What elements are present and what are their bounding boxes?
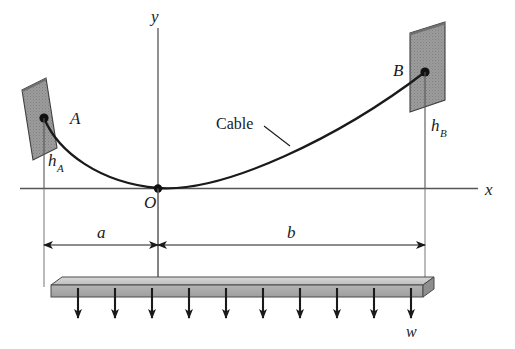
cable-label: Cable [216, 115, 253, 132]
load-beam [51, 277, 434, 297]
dimension-b-label: b [287, 223, 296, 242]
left-support-plate [22, 78, 57, 160]
height-b-symbol: h [431, 116, 440, 135]
cable-leader-line [264, 126, 290, 146]
plate-b-face [410, 22, 445, 112]
load-label: w [406, 323, 417, 340]
height-b-label: h B [431, 116, 447, 139]
right-support-plate [410, 22, 445, 112]
point-a-label: A [69, 109, 81, 128]
height-b-subscript: B [440, 127, 447, 139]
cable-diagram-figure: y x O A B Cable h A h B a b w [0, 0, 515, 349]
plate-a-face [22, 78, 57, 160]
height-a-subscript: A [56, 162, 64, 174]
y-axis-label: y [149, 7, 159, 26]
height-a-label: h A [48, 151, 64, 174]
beam-top-face [51, 277, 434, 285]
beam-front-face [51, 285, 423, 297]
origin-label: O [144, 193, 156, 212]
x-axis-label: x [484, 180, 493, 199]
point-b-label: B [393, 61, 404, 80]
axes-group [20, 28, 478, 291]
dimension-a-label: a [97, 223, 106, 242]
diagram-canvas: y x O A B Cable h A h B a b w [0, 0, 515, 349]
height-a-symbol: h [48, 151, 57, 170]
